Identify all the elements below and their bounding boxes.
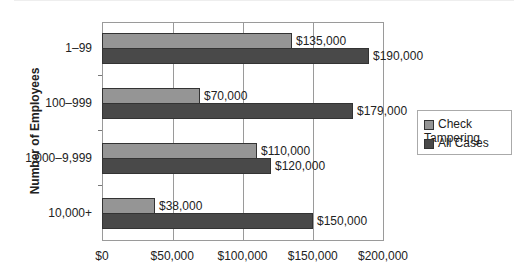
y-axis-title: Number of Employees: [28, 66, 42, 196]
category-label: 10,000+: [2, 206, 92, 220]
legend-item-all-cases: All Cases: [424, 136, 489, 150]
x-tick-label: $0: [67, 249, 137, 263]
data-label: $70,000: [204, 89, 247, 103]
data-label: $179,000: [357, 104, 407, 118]
x-tick-label: $100,000: [208, 249, 278, 263]
x-tick-label: $200,000: [348, 249, 418, 263]
data-label: $110,000: [261, 144, 310, 158]
bar-all-cases: [102, 213, 313, 229]
x-tick-label: $150,000: [278, 249, 348, 263]
data-label: $38,000: [159, 199, 202, 213]
data-label: $190,000: [373, 49, 423, 63]
category-label: 1,000–9,999: [2, 151, 92, 165]
y-tick: [98, 185, 102, 186]
bar-check-tampering: [102, 198, 155, 214]
bar-all-cases: [102, 158, 271, 174]
top-border: [14, 0, 514, 1]
bar-check-tampering: [102, 33, 292, 49]
data-label: $150,000: [317, 214, 367, 228]
legend-swatch-icon: [424, 120, 434, 130]
bar-check-tampering: [102, 88, 200, 104]
bar-all-cases: [102, 48, 369, 64]
data-label: $135,000: [296, 34, 346, 48]
legend-swatch-icon: [424, 139, 434, 149]
y-tick: [98, 130, 102, 131]
legend: Check Tampering All Cases: [417, 110, 512, 155]
category-label: 100–999: [2, 96, 92, 110]
y-tick: [98, 75, 102, 76]
x-tick-label: $50,000: [137, 249, 207, 263]
bar-check-tampering: [102, 143, 257, 159]
bar-all-cases: [102, 103, 353, 119]
category-label: 1–99: [2, 41, 92, 55]
data-label: $120,000: [275, 159, 325, 173]
